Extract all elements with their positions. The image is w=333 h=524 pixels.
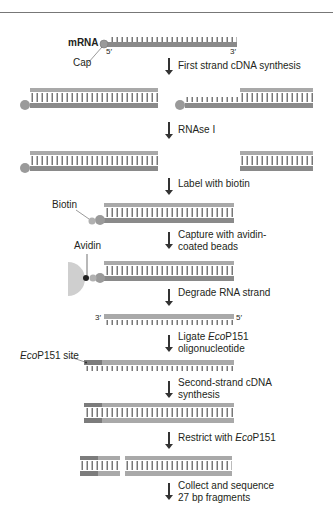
ligated-cdna bbox=[70, 357, 234, 371]
five-prime-label: 5′ bbox=[106, 46, 112, 58]
step-4-line2: coated beads bbox=[178, 241, 238, 253]
hybrid-row-2 bbox=[20, 151, 313, 173]
step-6-line1: Ligate EcoP151 bbox=[178, 331, 249, 343]
down-arrow-icon bbox=[168, 335, 170, 348]
step-9-line1: Collect and sequence bbox=[178, 480, 274, 492]
three-prime-label-2: 3′ bbox=[95, 312, 101, 324]
down-arrow-icon bbox=[168, 289, 170, 302]
step-3-label: Label with biotin bbox=[178, 178, 250, 190]
down-arrow-icon bbox=[168, 178, 170, 191]
step-4-line1: Capture with avidin- bbox=[178, 229, 266, 241]
down-arrow-icon bbox=[168, 58, 170, 71]
down-arrow-icon bbox=[168, 432, 170, 445]
ecop151-site-label: EcoP151 site bbox=[20, 350, 79, 362]
down-arrow-icon bbox=[168, 232, 170, 245]
biotin-label: Biotin bbox=[52, 199, 77, 211]
down-arrow-icon bbox=[168, 381, 170, 394]
cap-label: Cap bbox=[73, 57, 91, 69]
step-6-line2: oligonucleotide bbox=[178, 343, 245, 355]
double-strand-cdna bbox=[84, 403, 234, 423]
five-prime-label-2: 5′ bbox=[236, 312, 242, 324]
avidin-icon bbox=[83, 275, 89, 281]
restricted-fragments bbox=[80, 456, 232, 476]
step-2-label: RNAse I bbox=[178, 124, 215, 136]
biotinylated-hybrid bbox=[76, 203, 234, 225]
step-7-line2: synthesis bbox=[178, 389, 220, 401]
avidin-label: Avidin bbox=[74, 240, 101, 252]
hybrid-row-1 bbox=[20, 88, 313, 110]
step-8-label: Restrict with EcoP151 bbox=[178, 432, 276, 444]
down-arrow-icon bbox=[168, 483, 170, 496]
biotin-icon bbox=[89, 218, 96, 225]
step-9-line2: 27 bp fragments bbox=[178, 492, 250, 504]
step-5-label: Degrade RNA strand bbox=[178, 287, 270, 299]
bead-icon bbox=[68, 262, 85, 296]
down-arrow-icon bbox=[168, 122, 170, 135]
three-prime-label: 3′ bbox=[230, 46, 236, 58]
single-strand-cdna bbox=[104, 314, 234, 325]
step-1-label: First strand cDNA synthesis bbox=[178, 60, 301, 72]
mrna-label: mRNA bbox=[68, 37, 99, 49]
step-7-line1: Second-strand cDNA bbox=[178, 377, 272, 389]
